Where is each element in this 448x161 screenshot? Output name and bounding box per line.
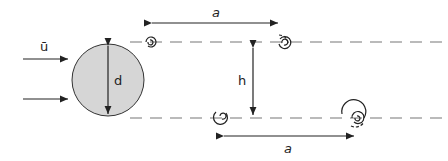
vortex-street-diagram bbox=[0, 0, 448, 161]
bottom-spacing-label: a bbox=[284, 142, 292, 155]
vortex-lower-2 bbox=[342, 100, 366, 127]
velocity-label: ū bbox=[40, 40, 48, 53]
flow-arrows bbox=[23, 59, 68, 99]
height-label: h bbox=[238, 74, 246, 87]
diameter-label: d bbox=[114, 74, 122, 87]
top-spacing-label: a bbox=[212, 6, 220, 19]
